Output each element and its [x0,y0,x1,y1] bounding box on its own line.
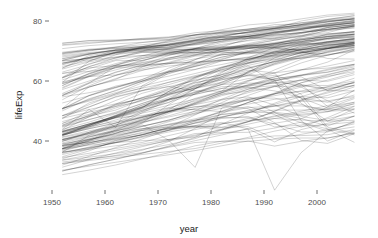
y-axis-title: lifeExp [13,91,24,120]
x-tick-label: 2000 [308,198,326,207]
x-tick-label: 1970 [149,198,167,207]
y-tick-label: 80 [33,17,42,26]
spaghetti-line-chart: 195019601970198019902000 406080 year lif… [0,0,378,238]
x-axis-title: year [180,223,198,234]
chart-container: 195019601970198019902000 406080 year lif… [0,0,378,238]
x-tick-label: 1980 [202,198,220,207]
y-tick-label: 60 [33,77,42,86]
x-tick-label: 1950 [43,198,61,207]
x-tick-label: 1990 [255,198,273,207]
x-tick-label: 1960 [96,198,114,207]
y-tick-label: 40 [33,137,42,146]
